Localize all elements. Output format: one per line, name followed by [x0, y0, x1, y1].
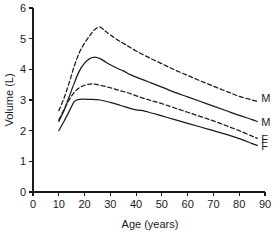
x-tick-label: 30 — [104, 198, 116, 210]
axis-ticks — [29, 8, 265, 196]
x-axis-title: Age (years) — [122, 218, 179, 230]
y-tick-label: 6 — [20, 2, 26, 14]
x-tick-label: 90 — [259, 198, 271, 210]
x-tick-label: 20 — [78, 198, 90, 210]
series-label-f-solid: F — [261, 140, 268, 152]
series-label-m-dashed: M — [261, 92, 270, 104]
y-tick-label: 0 — [20, 186, 26, 198]
y-tick-label: 5 — [20, 33, 26, 45]
y-tick-label: 2 — [20, 125, 26, 137]
x-tick-label: 60 — [182, 198, 194, 210]
line-chart: 01234560102030405060708090 MMFF Age (yea… — [0, 0, 275, 233]
series-end-labels: MMFF — [261, 92, 270, 152]
x-tick-label: 70 — [207, 198, 219, 210]
y-tick-label: 4 — [20, 63, 26, 75]
x-tick-label: 80 — [233, 198, 245, 210]
x-tick-label: 0 — [30, 198, 36, 210]
axis-tick-labels: 01234560102030405060708090 — [20, 2, 271, 210]
x-tick-label: 50 — [156, 198, 168, 210]
series-line-f-solid — [59, 99, 257, 145]
series-label-m-solid: M — [261, 116, 270, 128]
chart-container: 01234560102030405060708090 MMFF Age (yea… — [0, 0, 275, 233]
data-series — [59, 27, 257, 145]
x-tick-label: 40 — [130, 198, 142, 210]
series-line-m-solid — [59, 57, 257, 121]
series-line-m-dashed — [59, 27, 257, 111]
x-tick-label: 10 — [53, 198, 65, 210]
y-axis-title: Volume (L) — [3, 73, 15, 126]
y-tick-label: 1 — [20, 155, 26, 167]
y-tick-label: 3 — [20, 94, 26, 106]
